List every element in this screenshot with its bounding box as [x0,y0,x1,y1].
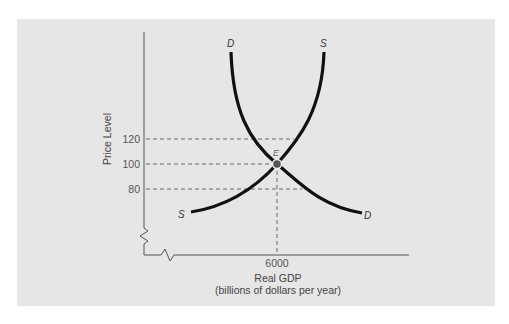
y-axis-title: Price Level [101,113,113,165]
chart-svg: D S S D E 120 100 80 6000 Real GDP (bill… [0,0,509,324]
y-axis [140,32,148,255]
demand-label-top: D [227,38,234,49]
supply-label-bottom: S [178,209,185,220]
demand-label-bottom: D [364,210,371,221]
y-tick-80: 80 [128,183,140,195]
equilibrium-label: E [273,148,280,158]
x-tick-6000: 6000 [265,257,289,269]
y-tick-120: 120 [122,133,140,145]
supply-label-top: S [320,38,327,49]
x-axis-title: Real GDP [254,272,301,284]
y-tick-100: 100 [122,158,140,170]
equilibrium-point [273,160,282,169]
x-axis-subtitle: (billions of dollars per year) [215,284,341,296]
